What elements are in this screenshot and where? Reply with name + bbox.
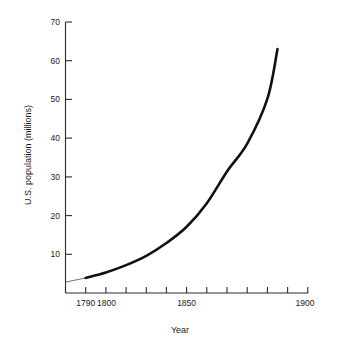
y-tick-label-30: 30: [51, 172, 61, 182]
y-tick-label-20: 20: [51, 211, 61, 221]
y-tick-label-60: 60: [51, 56, 61, 66]
x-tick-label-1800: 1800: [97, 298, 116, 308]
y-tick-label-10: 10: [51, 249, 61, 259]
y-tick-label-70: 70: [51, 17, 61, 27]
x-tick-label-1850: 1850: [177, 298, 196, 308]
population-growth-chart: 70 60 50 40 30 20 10 1790 180: [0, 0, 338, 356]
x-tick-label-1790: 1790: [76, 298, 95, 308]
y-axis-title: U.S. population (millions): [23, 105, 33, 205]
y-tick-label-50: 50: [51, 94, 61, 104]
x-axis-title: Year: [171, 325, 189, 335]
y-tick-label-40: 40: [51, 133, 61, 143]
chart-canvas: 70 60 50 40 30 20 10 1790 180: [0, 0, 338, 356]
x-tick-label-1900: 1900: [296, 298, 315, 308]
